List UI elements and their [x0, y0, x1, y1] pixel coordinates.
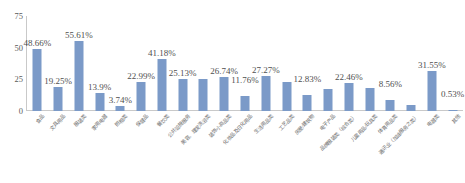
x-tick-label: 电器类: [426, 114, 440, 128]
x-tick-label: 文具用品: [49, 114, 67, 132]
y-tick-label: 75: [15, 12, 24, 21]
bar[interactable]: [220, 77, 229, 111]
bar[interactable]: [33, 49, 42, 111]
bar[interactable]: [407, 105, 416, 111]
plot-area: 48.66%19.25%55.61%13.9%3.74%22.99%41.18%…: [27, 16, 463, 111]
bar-group: 25.13%: [172, 16, 193, 111]
x-tick-label: 房屋/建筑物: [294, 114, 316, 136]
bar-group: 41.18%: [152, 16, 173, 111]
bar[interactable]: [365, 88, 374, 111]
bar-group: 22.46%: [338, 16, 359, 111]
bar-group: 55.61%: [69, 16, 90, 111]
bar-group: 31.55%: [421, 16, 442, 111]
bar-group: 13.9%: [89, 16, 110, 111]
x-tick-label: 保健品: [136, 114, 150, 128]
bar[interactable]: [303, 95, 312, 111]
bar[interactable]: [344, 83, 353, 111]
bar-group: [359, 16, 380, 111]
bar-group: 8.56%: [380, 16, 401, 111]
bar-chart: 0255075 48.66%19.25%55.61%13.9%3.74%22.9…: [0, 0, 465, 183]
bar-group: 48.66%: [27, 16, 48, 111]
bar[interactable]: [240, 96, 249, 111]
bar-group: 27.27%: [255, 16, 276, 111]
x-tick-label: 工艺品类: [278, 114, 296, 132]
bar[interactable]: [95, 93, 104, 111]
x-tick-label: 其他: [451, 114, 462, 125]
bar[interactable]: [448, 110, 457, 112]
bar-value-label: 3.74%: [109, 96, 132, 105]
x-tick-label: 餐饮类: [157, 114, 171, 128]
bar-value-label: 0.53%: [441, 90, 464, 99]
x-tick-label: 食品: [35, 114, 46, 125]
x-tick-label: 通讯业（加油服务之类）: [378, 114, 420, 156]
bar-group: 22.99%: [131, 16, 152, 111]
bar[interactable]: [74, 41, 83, 111]
bar[interactable]: [282, 82, 291, 111]
bar[interactable]: [324, 89, 333, 111]
x-tick-label: 照相类: [115, 114, 129, 128]
bar-group: 3.74%: [110, 16, 131, 111]
bar[interactable]: [199, 79, 208, 111]
y-tick-label: 25: [15, 75, 24, 84]
bar-value-label: 13.9%: [88, 83, 111, 92]
y-tick-label: 0: [19, 107, 23, 116]
bar[interactable]: [386, 100, 395, 111]
bar-group: [193, 16, 214, 111]
bar[interactable]: [157, 59, 166, 111]
bar-value-label: 8.56%: [379, 80, 402, 89]
bar-group: [276, 16, 297, 111]
x-axis-labels: 食品文具用品服装类家用电器照相类保健品餐饮类公共设施服务美容、理发洗浴类装饰小商…: [27, 112, 463, 183]
bar-group: 26.74%: [214, 16, 235, 111]
x-tick-label: 服装类: [73, 114, 87, 128]
bar[interactable]: [54, 87, 63, 111]
bar[interactable]: [116, 106, 125, 111]
bar-group: 12.83%: [297, 16, 318, 111]
bar[interactable]: [178, 79, 187, 111]
x-tick-label: 家用电器: [91, 114, 109, 132]
x-tick-label: 生活用品类: [253, 114, 274, 135]
bar-group: [318, 16, 339, 111]
bar[interactable]: [137, 82, 146, 111]
bar[interactable]: [427, 71, 436, 111]
bar-group: 0.53%: [442, 16, 463, 111]
y-axis: 0255075: [0, 0, 26, 120]
bar-group: 11.76%: [235, 16, 256, 111]
bar[interactable]: [261, 76, 270, 111]
x-tick-label: 电子产品: [319, 114, 337, 132]
y-tick-label: 50: [15, 44, 24, 53]
